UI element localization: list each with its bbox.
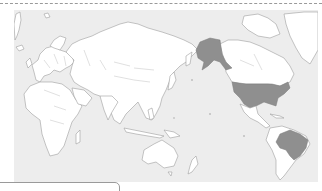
dashed-divider	[0, 3, 322, 4]
pacific-island	[173, 117, 174, 118]
new-zealand	[188, 156, 198, 174]
canada	[220, 40, 294, 86]
indonesia	[124, 128, 164, 138]
new-guinea	[164, 130, 180, 138]
pacific-island	[243, 135, 245, 137]
canadian-arctic-archipelago	[242, 14, 280, 38]
svalbard	[44, 13, 50, 18]
mexico-central-america	[240, 104, 270, 128]
greenland-west-fragment	[14, 12, 21, 40]
iceland	[16, 45, 24, 51]
australia	[142, 140, 178, 168]
pacific-island	[191, 79, 193, 81]
pacific-island	[209, 113, 211, 115]
world-map-svg	[14, 10, 318, 182]
tasmania	[168, 172, 172, 176]
greenland	[284, 12, 318, 64]
world-map	[14, 10, 318, 182]
british-isles	[26, 58, 32, 68]
madagascar	[76, 130, 80, 144]
russia-asia	[66, 22, 198, 124]
legend-box	[0, 182, 120, 191]
caribbean	[270, 114, 284, 118]
